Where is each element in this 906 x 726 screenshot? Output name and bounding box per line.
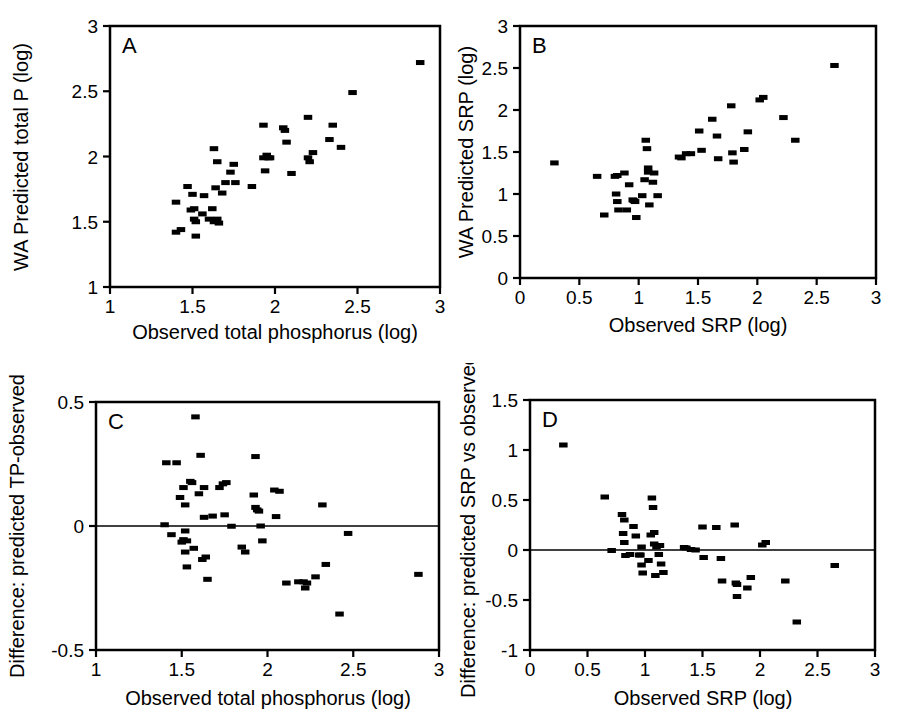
panel-c-xlabel: Observed total phosphorus (log) <box>125 687 411 709</box>
data-point <box>743 586 752 591</box>
data-point <box>733 582 742 587</box>
x-tick-label: 2.5 <box>340 659 366 680</box>
y-tick-label: 1 <box>507 440 518 461</box>
data-point <box>311 574 320 579</box>
data-point <box>713 134 722 139</box>
y-tick-label: 1 <box>87 277 98 298</box>
data-point <box>162 460 171 465</box>
data-point <box>779 115 788 120</box>
data-point <box>747 575 756 580</box>
data-point <box>309 150 318 155</box>
x-tick-label: 0 <box>515 287 526 308</box>
x-tick-label: 1.5 <box>169 659 195 680</box>
y-tick-label: 2 <box>497 100 508 121</box>
data-point <box>612 192 621 197</box>
x-tick-label: 0.5 <box>566 287 592 308</box>
data-point <box>733 594 742 599</box>
data-point <box>618 512 627 517</box>
data-point <box>211 185 220 190</box>
data-point <box>655 552 664 557</box>
data-point <box>231 180 240 185</box>
y-tick-label: 0.5 <box>482 226 508 247</box>
data-point <box>636 553 645 558</box>
panel-c-label: C <box>108 409 124 434</box>
data-point <box>192 219 201 224</box>
panel-a: 11.522.5311.522.53 A Observed total phos… <box>0 0 453 363</box>
y-tick-label: -1 <box>501 640 518 661</box>
panel-b-label: B <box>532 33 547 58</box>
data-point <box>657 562 666 567</box>
y-tick-label: 3 <box>497 16 508 37</box>
data-point <box>691 548 700 553</box>
data-point <box>179 485 188 490</box>
y-tick-label: 3 <box>87 16 98 37</box>
data-point <box>259 123 268 128</box>
x-tick-label: 2.5 <box>803 287 829 308</box>
data-point <box>744 129 753 134</box>
data-point <box>248 184 257 189</box>
data-point <box>222 480 231 485</box>
data-point <box>287 171 296 176</box>
data-point <box>329 123 338 128</box>
data-point <box>640 177 649 182</box>
data-point <box>208 514 217 519</box>
data-point <box>619 531 628 536</box>
x-tick-label: 1.5 <box>685 287 711 308</box>
data-point <box>613 199 622 204</box>
y-tick-label: 1 <box>497 184 508 205</box>
data-point <box>620 171 629 176</box>
data-point <box>221 180 230 185</box>
data-point <box>653 193 662 198</box>
y-tick-label: -0.5 <box>51 640 84 661</box>
data-point <box>196 453 205 458</box>
data-point <box>191 414 200 419</box>
x-tick-label: 2.5 <box>344 296 370 317</box>
data-point <box>729 160 738 165</box>
data-point <box>255 509 263 514</box>
panel-b-xlabel: Observed SRP (log) <box>609 314 788 336</box>
data-point <box>631 199 640 204</box>
panel-b-ylabel: WA Predicted SRP (log) <box>455 46 477 258</box>
y-tick-label: 2 <box>87 147 98 168</box>
data-point <box>218 191 227 196</box>
panel-d-label: D <box>542 407 558 432</box>
data-point <box>637 563 646 568</box>
x-tick-label: 2 <box>752 287 763 308</box>
panel-c-ylabel: Difference: predicted TP-observed <box>6 374 28 678</box>
data-point <box>195 491 204 496</box>
data-point <box>335 612 344 617</box>
data-point <box>632 215 641 220</box>
panel-d: 00.511.522.53-1-0.500.511.5 D Observed S… <box>453 363 906 726</box>
data-point <box>220 512 229 517</box>
data-point <box>188 192 197 197</box>
data-point <box>629 524 638 529</box>
data-point <box>261 168 270 173</box>
x-tick-label: 3 <box>870 659 881 680</box>
data-point <box>190 546 199 551</box>
data-point <box>717 556 726 561</box>
x-tick-label: 1 <box>105 296 116 317</box>
panel-b: 00.511.522.5300.511.522.53 B Observed SR… <box>453 0 906 363</box>
data-point <box>620 540 629 545</box>
panel-c-canvas: 11.522.53-0.500.5 C Observed total phosp… <box>0 363 453 726</box>
data-point <box>416 60 425 65</box>
data-point <box>697 148 706 153</box>
data-point <box>649 505 658 510</box>
data-point <box>730 523 739 528</box>
data-point <box>593 174 602 179</box>
x-tick-label: 1.5 <box>179 296 205 317</box>
data-point <box>632 534 641 539</box>
x-tick-label: 3 <box>434 659 445 680</box>
data-point <box>213 159 222 164</box>
data-point <box>200 485 209 490</box>
data-point <box>160 522 169 527</box>
data-point <box>830 63 839 68</box>
x-tick-label: 2.5 <box>804 659 830 680</box>
data-point <box>550 160 559 165</box>
data-point <box>337 145 346 150</box>
y-tick-label: 0.5 <box>58 392 84 413</box>
data-point <box>601 495 610 500</box>
data-point <box>304 115 313 120</box>
data-point <box>172 460 181 465</box>
data-point <box>656 543 665 548</box>
